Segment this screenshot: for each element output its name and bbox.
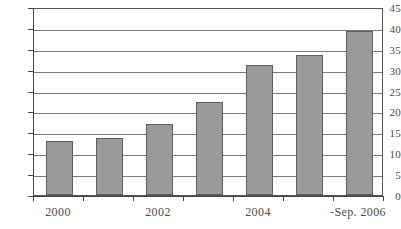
x-axis-tick bbox=[33, 196, 34, 201]
x-axis-tick bbox=[333, 196, 334, 201]
gridline bbox=[34, 30, 382, 31]
bar bbox=[296, 55, 323, 195]
x-axis-label: 2002 bbox=[145, 205, 171, 220]
x-axis-line bbox=[28, 196, 384, 197]
x-axis-label: 2000 bbox=[45, 205, 71, 220]
y-axis-label: 10 bbox=[375, 149, 401, 160]
y-axis-tick bbox=[28, 92, 33, 93]
bar-chart: 051015202530354045 200020022004-Sep. 200… bbox=[0, 0, 401, 229]
y-axis-label: 40 bbox=[375, 24, 401, 35]
gridline bbox=[34, 72, 382, 73]
x-axis-tick bbox=[233, 196, 234, 201]
y-axis-label: 5 bbox=[375, 170, 401, 181]
y-axis-tick bbox=[28, 71, 33, 72]
x-axis-tick bbox=[133, 196, 134, 201]
y-axis-tick bbox=[28, 8, 33, 9]
bar bbox=[196, 102, 223, 195]
bar bbox=[346, 31, 373, 195]
bar bbox=[146, 124, 173, 195]
bar bbox=[96, 138, 123, 195]
y-axis-label: 20 bbox=[375, 107, 401, 118]
gridline bbox=[34, 93, 382, 94]
y-axis-line bbox=[33, 8, 34, 196]
x-axis-label: -Sep. 2006 bbox=[330, 205, 386, 220]
y-axis-label: 30 bbox=[375, 66, 401, 77]
y-axis-label: 45 bbox=[375, 3, 401, 14]
x-axis-tick bbox=[183, 196, 184, 201]
bar bbox=[246, 65, 273, 195]
gridline bbox=[34, 51, 382, 52]
x-axis-tick bbox=[83, 196, 84, 201]
y-axis-label: 35 bbox=[375, 45, 401, 56]
y-axis-tick bbox=[28, 154, 33, 155]
y-axis-tick bbox=[28, 50, 33, 51]
y-axis-label: 15 bbox=[375, 128, 401, 139]
x-axis-tick bbox=[283, 196, 284, 201]
y-axis-tick bbox=[28, 29, 33, 30]
plot-area bbox=[33, 8, 383, 196]
y-axis-tick bbox=[28, 112, 33, 113]
x-axis-tick bbox=[383, 196, 384, 201]
x-axis-label: 2004 bbox=[245, 205, 271, 220]
y-axis-label: 25 bbox=[375, 87, 401, 98]
bar bbox=[46, 141, 73, 195]
y-axis-tick bbox=[28, 133, 33, 134]
y-axis-tick bbox=[28, 175, 33, 176]
